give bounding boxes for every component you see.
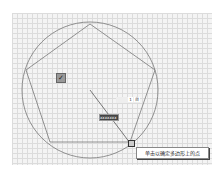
command-tooltip: 单击以确定多边形上的点 (136, 147, 209, 159)
dimension-input[interactable]: 1 台 (116, 97, 140, 103)
cursor-grip-icon[interactable] (128, 140, 135, 147)
dimension-suffix: 台 (134, 97, 140, 102)
dimension-value: 1 (128, 97, 133, 102)
dynamic-input-field[interactable]: xxxxxxx (99, 114, 119, 121)
pentagon-shape (26, 24, 155, 142)
checkmark-icon: ✓ (56, 73, 66, 83)
